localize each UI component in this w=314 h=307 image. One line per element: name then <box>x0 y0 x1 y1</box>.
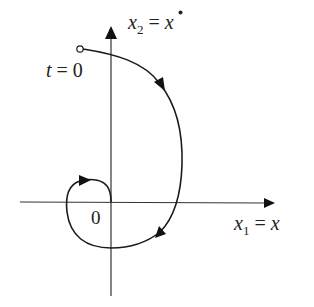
trajectory-curve <box>67 49 183 248</box>
x2-axis-arrowhead-icon <box>105 26 117 39</box>
start-point-open-circle-icon <box>77 46 83 52</box>
x2-axis-label: x2 = x <box>127 11 174 37</box>
x1-axis <box>20 202 266 203</box>
direction-arrow-icon <box>79 175 91 186</box>
phase-plane-diagram: x2 = x t = 0 0 x1 = x <box>0 0 314 307</box>
x1-axis-label: x1 = x <box>233 212 280 238</box>
x1-axis-arrowhead-icon <box>264 198 275 208</box>
start-time-label: t = 0 <box>46 59 83 81</box>
origin-label: 0 <box>91 207 101 228</box>
time-derivative-dot-icon <box>179 11 183 15</box>
